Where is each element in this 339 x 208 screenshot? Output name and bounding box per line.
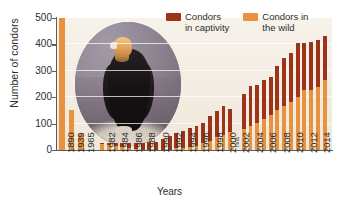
x-tick-label-2004: 2004 [254, 132, 265, 153]
bar-segment-captivity-2015 [323, 36, 327, 80]
bar-segment-captivity-2013 [309, 42, 313, 90]
chart-figure: n/a 0100200300400500 1890193919651982198… [0, 0, 339, 208]
x-tick-label-1990: 1990 [160, 132, 171, 153]
chart-legend: Condors in captivity Condors in the wild [166, 11, 308, 33]
x-tick-label-2002: 2002 [240, 132, 251, 153]
bar-segment-captivity-2001 [228, 109, 232, 132]
legend-swatch-captivity-icon [166, 13, 181, 21]
y-tick-mark-0 [52, 150, 56, 151]
bar-segment-captivity-2007 [269, 77, 273, 116]
bar-segment-captivity-2005 [255, 85, 259, 123]
y-axis-line [56, 17, 57, 151]
y-tick-label-0: 0 [22, 145, 52, 155]
bar-segment-captivity-2006 [262, 80, 266, 120]
legend-label-captivity: Condors in captivity [185, 11, 229, 33]
x-tick-label-2014: 2014 [321, 132, 332, 153]
y-tick-mark-400 [52, 44, 56, 45]
x-tick-label-2006: 2006 [267, 132, 278, 153]
x-tick-label-1996: 1996 [200, 132, 211, 153]
x-tick-label-1988: 1988 [146, 132, 157, 153]
bar-segment-captivity-2000 [222, 106, 226, 136]
bar-segment-wild-1890 [59, 18, 65, 150]
x-tick-label-1998: 1998 [214, 132, 225, 153]
bar-segment-captivity-2012 [302, 43, 306, 90]
bar-1982 [100, 143, 104, 150]
bar-segment-captivity-2003 [242, 94, 246, 129]
x-tick-label-1992: 1992 [173, 132, 184, 153]
bar-1890 [59, 18, 65, 150]
x-tick-label-1994: 1994 [187, 132, 198, 153]
x-tick-label-2008: 2008 [281, 132, 292, 153]
bar-series-group: n/a [57, 18, 332, 150]
bar-segment-captivity-2009 [282, 58, 286, 106]
x-tick-label-1986: 1986 [133, 132, 144, 153]
legend-swatch-wild-icon [243, 13, 258, 21]
legend-item-wild: Condors in the wild [243, 11, 308, 33]
bar-segment-captivity-2008 [275, 66, 279, 111]
y-tick-mark-300 [52, 71, 56, 72]
bar-segment-captivity-2010 [289, 53, 293, 102]
y-tick-mark-500 [52, 18, 56, 19]
y-tick-label-300: 300 [22, 66, 52, 76]
x-tick-label-2010: 2010 [294, 132, 305, 153]
y-axis-title: Number of condors [8, 3, 20, 123]
legend-item-captivity: Condors in captivity [166, 11, 229, 33]
x-axis-title: Years [0, 186, 339, 197]
x-tick-label-2012: 2012 [308, 132, 319, 153]
y-tick-mark-100 [52, 124, 56, 125]
bar-segment-captivity-2011 [296, 43, 300, 97]
legend-label-wild: Condors in the wild [262, 11, 308, 33]
plot-area: n/a [57, 18, 332, 150]
y-tick-label-500: 500 [22, 13, 52, 23]
y-tick-mark-200 [52, 97, 56, 98]
y-tick-label-400: 400 [22, 39, 52, 49]
bar-segment-captivity-2004 [249, 86, 253, 127]
bar-segment-captivity-2014 [316, 40, 320, 88]
x-tick-label-1965: 1965 [85, 132, 96, 153]
x-tick-label-1984: 1984 [119, 132, 130, 153]
y-tick-label-100: 100 [22, 119, 52, 129]
y-tick-label-200: 200 [22, 92, 52, 102]
x-tick-label-2000: 2000 [227, 132, 238, 153]
x-tick-label-1982: 1982 [106, 132, 117, 153]
